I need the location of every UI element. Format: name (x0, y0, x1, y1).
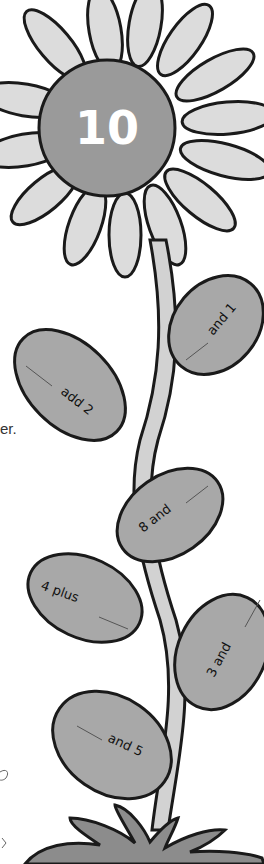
flower-center: 10 (39, 60, 175, 196)
leaf-add-2: add 2 (0, 309, 146, 462)
edge-tick-mark (2, 838, 6, 848)
leaf-8-and: 8 and (100, 449, 241, 581)
edge-squiggle-mark (0, 770, 8, 780)
partial-instruction-text: er. (0, 420, 17, 437)
center-number: 10 (75, 101, 139, 155)
number-bond-flower-illustration: 10 and 1 add 2 8 and 4 plus 3 and and 5 (0, 0, 264, 864)
grass-tuft (25, 805, 264, 864)
